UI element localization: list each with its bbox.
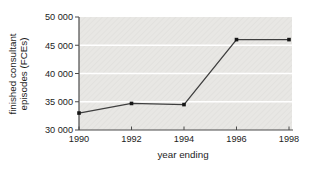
y-tick-label: 40 000 (45, 69, 73, 79)
y-tick-label: 35 000 (45, 97, 73, 107)
x-tick-label: 1994 (174, 134, 194, 144)
plot-group: 30 00035 00040 00045 00050 0001990199219… (45, 12, 299, 144)
x-axis-title: year ending (157, 149, 208, 160)
y-axis-title-line1: finished consultant (7, 33, 18, 114)
y-tick-label: 50 000 (45, 12, 73, 22)
chart-figure: 30 00035 00040 00045 00050 0001990199219… (0, 0, 316, 170)
data-point-1992 (130, 102, 134, 106)
data-point-1998 (287, 38, 291, 42)
line-chart: 30 00035 00040 00045 00050 0001990199219… (0, 0, 316, 170)
y-tick-label: 45 000 (45, 41, 73, 51)
data-point-1990 (77, 111, 81, 115)
x-tick-label: 1992 (121, 134, 141, 144)
y-axis-title-line2: episodes (FCEs) (18, 38, 29, 111)
data-point-1996 (235, 38, 239, 42)
x-tick-label: 1990 (69, 134, 89, 144)
data-point-1994 (182, 103, 186, 107)
x-tick-label: 1998 (279, 134, 299, 144)
x-tick-label: 1996 (226, 134, 246, 144)
